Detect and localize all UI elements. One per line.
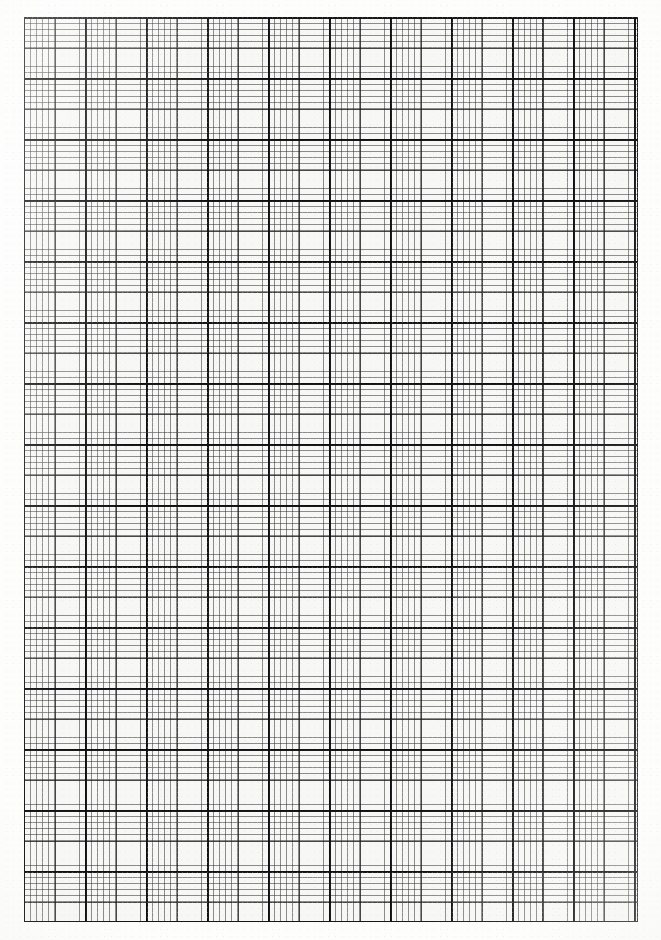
paper-margin-bottom [0,922,661,940]
paper-margin-top [0,0,661,17]
paper-margin-left [0,0,24,940]
graph-paper-sheet [0,0,661,940]
paper-margin-right [638,0,661,940]
grid-block [24,17,638,922]
grid-outer-border [24,17,638,922]
